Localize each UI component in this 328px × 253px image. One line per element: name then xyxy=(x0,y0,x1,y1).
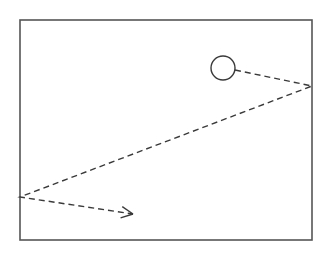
trajectory-dashed-path xyxy=(20,70,312,214)
container-box xyxy=(20,20,312,240)
ball-circle xyxy=(211,56,235,80)
bounce-diagram xyxy=(0,0,328,253)
